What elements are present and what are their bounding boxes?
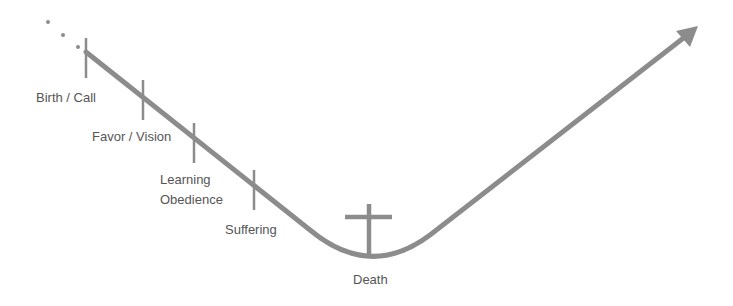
label-favor-vision: Favor / Vision [92,129,171,144]
label-obedience: Obedience [160,192,223,207]
label-suffering: Suffering [225,222,277,237]
dot [61,33,65,37]
label-death: Death [353,272,388,287]
label-learning: Learning [160,172,211,187]
journey-diagram: Birth / Call Favor / Vision Learning Obe… [0,0,733,306]
cross-icon [345,204,392,255]
journey-path [86,36,686,256]
dot [76,45,80,49]
label-birth-call: Birth / Call [36,90,96,105]
dot [46,20,50,24]
leading-dots [46,20,80,49]
